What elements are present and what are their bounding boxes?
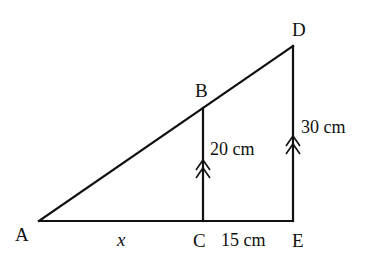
segment-ad <box>39 46 293 221</box>
point-label-e: E <box>292 230 304 251</box>
point-label-a: A <box>15 224 29 245</box>
length-label-ac: x <box>116 229 126 250</box>
similar-triangles-diagram: A B C D E x 15 cm 20 cm 30 cm <box>0 0 373 259</box>
length-label-ce: 15 cm <box>221 230 266 250</box>
point-label-c: C <box>193 230 206 251</box>
point-label-d: D <box>292 19 306 40</box>
length-label-bc: 20 cm <box>210 139 255 159</box>
length-label-de: 30 cm <box>301 117 346 137</box>
point-label-b: B <box>195 80 208 101</box>
